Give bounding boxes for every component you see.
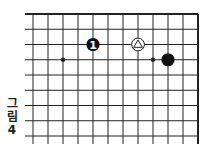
black-stone [161, 53, 174, 66]
go-board: 1 [0, 0, 208, 154]
star-point [151, 58, 155, 62]
caption-line-3: 4 [4, 124, 20, 137]
figure-caption: 그 림 4 [4, 98, 20, 137]
star-point [61, 58, 65, 62]
stone-number-label: 1 [89, 39, 97, 52]
